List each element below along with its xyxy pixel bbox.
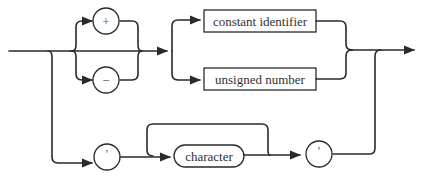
plus-label: + bbox=[102, 14, 109, 29]
plus-exit bbox=[120, 21, 142, 51]
constant-exit bbox=[316, 21, 352, 50]
syntax-diagram: + − constant identifier unsigned number … bbox=[0, 0, 424, 179]
minus-exit bbox=[120, 51, 142, 80]
number-exit bbox=[316, 50, 352, 79]
character-label: character bbox=[185, 149, 233, 164]
minus-label: − bbox=[102, 73, 109, 88]
string-branch bbox=[48, 51, 92, 163]
string-return bbox=[333, 50, 381, 154]
unsigned-number-label: unsigned number bbox=[215, 72, 306, 87]
constant-identifier-label: constant identifier bbox=[213, 14, 308, 29]
open-quote-label: ' bbox=[106, 146, 108, 161]
number-branch bbox=[172, 51, 200, 80]
close-quote-label: ' bbox=[318, 143, 320, 158]
minus-branch bbox=[72, 51, 92, 80]
constant-branch bbox=[172, 20, 200, 51]
plus-branch bbox=[72, 21, 92, 51]
